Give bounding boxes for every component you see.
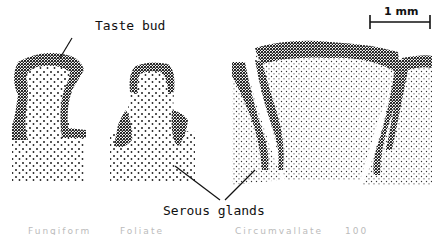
taste-bud-label: Taste bud <box>95 18 165 33</box>
foliate-papilla <box>110 62 195 183</box>
panel-caption-cut-1: Fungiform <box>28 226 91 235</box>
papillae-illustration <box>0 0 444 235</box>
panel-caption-cut-4: 100 <box>345 226 368 235</box>
panel-caption-cut-2: Foliate <box>120 226 164 235</box>
scale-bar-label: 1 mm <box>384 5 418 18</box>
panel-caption-cut-3: Circumvallate <box>235 226 323 235</box>
fungiform-papilla <box>12 53 86 183</box>
serous-glands-label: Serous glands <box>163 203 265 218</box>
circumvallate-papilla <box>232 41 432 185</box>
